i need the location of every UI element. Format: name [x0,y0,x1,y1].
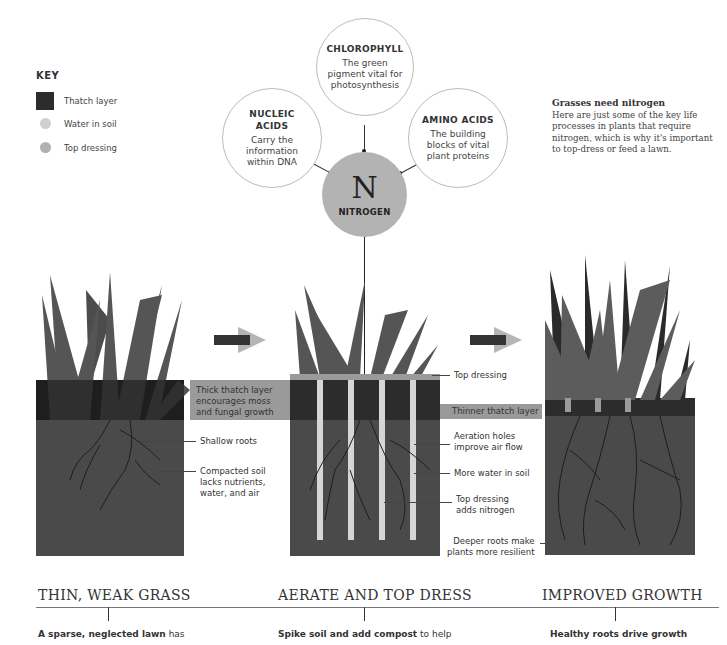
left-lawn-illustration [30,270,192,560]
timeline-tick [364,607,365,621]
annotation-compacted-soil: Compacted soil lacks nutrients, water, a… [200,466,266,499]
sidebar-note-title: Grasses need nitrogen [552,98,665,108]
annotation-aeration-holes: Aeration holes improve air flow [454,431,523,453]
annotation-deeper-roots: Deeper roots make plants more resilient [447,536,535,558]
leader-line [384,502,452,503]
timeline-tick [615,607,616,621]
process-desc: Carry the information within DNA [246,135,298,168]
circle-nucleic-acids: NUCLEIC ACIDS Carry the information with… [222,88,322,188]
process-title: CHLOROPHYLL [326,43,403,55]
key-label: Thatch layer [64,96,117,106]
nitrogen-label: NITROGEN [338,207,390,217]
leader-line [414,444,450,445]
circle-amino-acids: AMINO ACIDS The building blocks of vital… [408,88,508,188]
annotation-top-dressing-nitrogen: Top dressing adds nitrogen [456,494,515,516]
key-item-thatch: Thatch layer [36,92,117,110]
stage-caption-3: Healthy roots drive growth [550,629,687,639]
key-label: Water in soil [64,119,117,129]
top-dressing-dot-icon [40,142,51,153]
annotation-more-water: More water in soil [454,468,530,479]
circle-chlorophyll: CHLOROPHYLL The green pigment vital for … [316,18,414,116]
right-lawn-illustration [540,250,700,560]
nitrogen-circle: N NITROGEN [322,152,407,237]
key-item-water: Water in soil [36,118,117,129]
key-title: KEY [36,70,59,81]
timeline-tick [108,607,109,621]
sidebar-note-body: Here are just some of the key life proce… [552,110,722,156]
thick-thatch-label: Thick thatch layer encourages moss and f… [196,385,274,418]
thatch-swatch-icon [36,92,54,110]
timeline-line [36,607,719,608]
arrow-right-icon [212,325,268,355]
leader-line [414,473,450,474]
nitrogen-symbol: N [351,173,377,203]
process-desc: The building blocks of vital plant prote… [427,129,490,162]
stage-caption-1: A sparse, neglected lawn has [38,629,185,639]
leader-line [432,375,450,376]
stage-title-improved-growth: IMPROVED GROWTH [542,587,703,603]
annotation-top-dressing: Top dressing [454,370,507,381]
stage-caption-2: Spike soil and add compost to help [278,629,451,639]
leader-line [160,471,196,472]
key-item-top-dressing: Top dressing [36,142,117,153]
stage-title-aerate-top-dress: AERATE AND TOP DRESS [278,587,472,603]
arrow-right-icon [468,325,524,355]
process-title: AMINO ACIDS [422,114,494,126]
process-desc: The green pigment vital for photosynthes… [328,58,403,91]
thinner-thatch-label: Thinner thatch layer [452,406,539,417]
leader-line [140,441,196,442]
key-label: Top dressing [64,143,117,153]
annotation-shallow-roots: Shallow roots [200,436,257,447]
water-dot-icon [40,118,51,129]
process-title: NUCLEIC ACIDS [249,108,294,132]
stage-title-thin-weak-grass: THIN, WEAK GRASS [38,587,191,603]
middle-lawn-illustration [290,270,440,560]
